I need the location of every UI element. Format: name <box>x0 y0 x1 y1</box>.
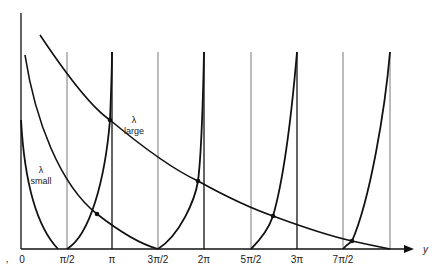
lambda-small-curve <box>25 55 158 249</box>
tick-label-0: 0 <box>19 254 25 265</box>
tick-label-5pi-half: 5π/2 <box>241 254 262 265</box>
asymptote-lines <box>21 13 297 249</box>
x-axis <box>21 245 414 253</box>
lambda-large-text: large <box>124 126 144 136</box>
lambda-large-symbol: λ <box>132 115 137 125</box>
diagram: λ large λ small 0 π/2 π 3π/2 2π 5π/2 3π … <box>0 0 440 274</box>
tick-label-2pi: 2π <box>198 254 211 265</box>
lambda-small-symbol: λ <box>39 165 44 175</box>
tick-label-3pi-half: 3π/2 <box>148 254 169 265</box>
tick-label-pi-half: π/2 <box>59 254 75 265</box>
lambda-small-text: small <box>30 176 51 186</box>
tan-branches <box>21 52 390 249</box>
tick-label-3pi: 3π <box>291 254 304 265</box>
axis-label-y: y <box>422 244 429 255</box>
stray-mark: ‚ <box>6 253 8 264</box>
intersection-points <box>95 118 355 244</box>
grid-lines <box>67 52 390 249</box>
tick-label-7pi-half: 7π/2 <box>333 254 354 265</box>
arrow-icon <box>404 245 414 253</box>
lambda-large-curve <box>40 35 390 249</box>
tick-label-pi: π <box>109 254 116 265</box>
